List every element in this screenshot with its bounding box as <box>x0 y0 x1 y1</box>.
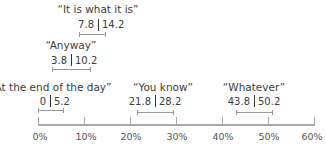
error-bar <box>79 34 105 35</box>
series-label: “Whatever” <box>223 81 285 93</box>
x-tick-label: 60% <box>301 131 322 142</box>
error-bar <box>137 112 173 113</box>
error-cap <box>236 110 237 115</box>
range-high-value: 50.2 <box>254 96 280 107</box>
error-cap <box>137 110 138 115</box>
range-high-value: 14.2 <box>98 19 124 30</box>
series-label: “You know” <box>133 81 193 93</box>
x-tick-label: 40% <box>212 131 233 142</box>
x-tick <box>130 117 131 125</box>
error-bar <box>236 112 272 113</box>
error-bar <box>52 69 90 70</box>
x-tick-label: 30% <box>166 131 187 142</box>
error-cap <box>90 67 91 72</box>
range-low-value: 0 <box>40 96 50 107</box>
x-tick-label: 0% <box>32 131 47 142</box>
range-low-value: 7.8 <box>78 19 98 30</box>
error-cap <box>38 108 39 113</box>
error-cap <box>272 110 273 115</box>
x-tick-label: 10% <box>75 131 96 142</box>
error-cap <box>79 32 80 37</box>
x-tick <box>38 117 39 125</box>
error-cap <box>63 108 64 113</box>
x-tick-label: 20% <box>120 131 141 142</box>
range-low-value: 21.8 <box>129 96 155 107</box>
range-high-value: 10.2 <box>71 55 97 66</box>
range-high-value: 28.2 <box>155 96 181 107</box>
error-cap <box>173 110 174 115</box>
x-tick <box>84 117 85 125</box>
error-bar <box>38 110 63 111</box>
x-tick <box>314 117 315 125</box>
error-cap <box>105 32 106 37</box>
series-label: “It is what it is” <box>57 3 138 15</box>
error-cap <box>52 67 53 72</box>
range-high-value: 5.2 <box>50 96 70 107</box>
range-low-value: 3.8 <box>51 55 71 66</box>
range-low-value: 43.8 <box>228 96 254 107</box>
x-tick <box>222 117 223 125</box>
x-tick-label: 50% <box>258 131 279 142</box>
series-label: “At the end of the day” <box>0 81 112 93</box>
x-tick <box>176 117 177 125</box>
x-tick <box>268 117 269 125</box>
series-label: “Anyway” <box>46 39 97 51</box>
